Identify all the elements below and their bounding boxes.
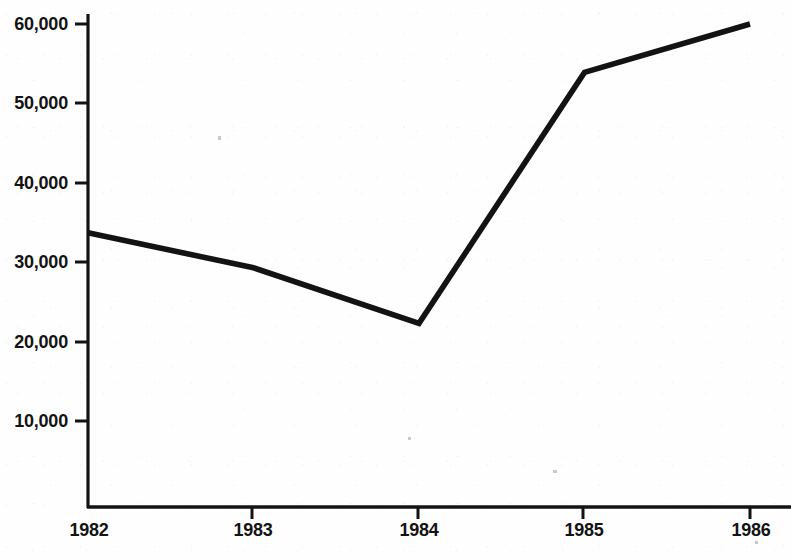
y-axis-label-50000: 50,000: [6, 94, 68, 112]
y-axis-label-60000: 60,000: [6, 15, 68, 33]
y-axis-label-30000: 30,000: [6, 253, 68, 271]
chart-background: [0, 0, 791, 558]
x-axis-label-1984: 1984: [384, 521, 454, 539]
y-axis-label-20000: 20,000: [6, 333, 68, 351]
chart-plot-area: [0, 0, 791, 558]
y-axis-label-40000: 40,000: [6, 174, 68, 192]
x-axis-label-1986: 1986: [716, 521, 786, 539]
line-chart: 60,000 50,000 40,000 30,000 20,000 10,00…: [0, 0, 791, 558]
x-axis-label-1982: 1982: [54, 521, 124, 539]
x-axis-label-1985: 1985: [549, 521, 619, 539]
x-axis-label-1983: 1983: [218, 521, 288, 539]
y-axis-label-10000: 10,000: [6, 412, 68, 430]
